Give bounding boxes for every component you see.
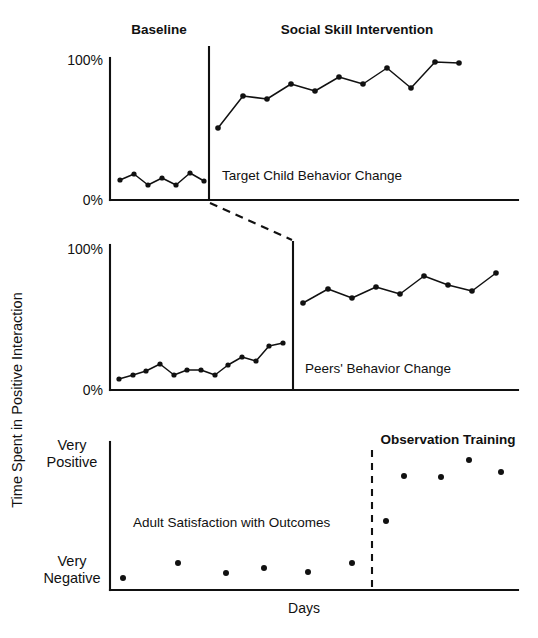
panel1-intervention-points xyxy=(215,59,462,131)
panel3-posttraining-points xyxy=(383,457,504,524)
figure-container: Time Spent in Positive Interaction Basel… xyxy=(0,0,538,638)
phase-connector-dashed xyxy=(210,203,292,240)
panel2-caption: Peers' Behavior Change xyxy=(305,361,451,376)
panel1-ytick-100: 100% xyxy=(67,52,103,68)
x-axis-title: Days xyxy=(288,600,320,616)
panel2-ytick-0: 0% xyxy=(83,382,103,398)
panel-target-child: Baseline Social Skill Intervention 100% … xyxy=(67,22,518,208)
panel3-ytick-very-positive-line2: Positive xyxy=(47,454,98,470)
panel3-pretraining-points xyxy=(120,560,355,581)
panel2-intervention-points xyxy=(300,270,499,306)
panel3-caption: Adult Satisfaction with Outcomes xyxy=(133,515,331,530)
panel2-intervention-line xyxy=(303,273,496,303)
panel1-phase-label-intervention: Social Skill Intervention xyxy=(281,22,433,37)
panel-peers: 100% 0% xyxy=(67,241,518,398)
panel2-baseline-points xyxy=(116,340,285,381)
panel1-ytick-0: 0% xyxy=(83,192,103,208)
panel1-phase-label-baseline: Baseline xyxy=(131,22,187,37)
panel-adult-satisfaction: Observation Training Very Positive Very … xyxy=(43,432,518,616)
panel3-phase-label-observation-training: Observation Training xyxy=(380,432,515,447)
y-axis-title: Time Spent in Positive Interaction xyxy=(9,292,25,507)
panel3-ytick-very-negative-line1: Very xyxy=(57,553,87,569)
panel1-caption: Target Child Behavior Change xyxy=(222,168,402,183)
panel1-baseline-points xyxy=(117,170,206,187)
panel3-ytick-very-positive-line1: Very xyxy=(57,437,87,453)
panel2-ytick-100: 100% xyxy=(67,241,103,257)
panel3-ytick-very-negative-line2: Negative xyxy=(43,570,100,586)
panel1-intervention-line xyxy=(218,62,459,128)
multi-panel-chart: Time Spent in Positive Interaction Basel… xyxy=(0,0,538,638)
